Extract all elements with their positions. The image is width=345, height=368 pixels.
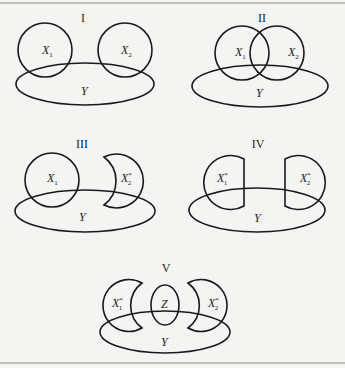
panel-II: II X1 X2 Y (192, 11, 328, 107)
label-x1-star: X*1 (111, 296, 123, 312)
diagram-canvas: I X1 X2 Y II X1 X2 Y III X1 X*2 Y IV X*1… (0, 0, 345, 368)
venn-diagram-figure: I X1 X2 Y II X1 X2 Y III X1 X*2 Y IV X*1… (0, 0, 345, 368)
label-y: Y (256, 86, 264, 100)
label-y: Y (254, 211, 262, 225)
set-y-ellipse (189, 188, 325, 232)
label-x1-star: X*1 (216, 171, 228, 187)
panel-label-I: I (81, 11, 85, 25)
panel-IV: IV X*1 X*2 Y (189, 137, 325, 232)
label-y: Y (161, 335, 169, 349)
set-x1-star-crescent (103, 280, 142, 332)
label-x2: X2 (287, 45, 299, 61)
label-x2-star: X*2 (299, 171, 311, 187)
panel-III: III X1 X*2 Y (15, 137, 155, 232)
panel-label-V: V (162, 261, 171, 275)
panel-label-II: II (258, 11, 266, 25)
label-y: Y (79, 210, 87, 224)
label-x1: X1 (234, 45, 246, 61)
label-y: Y (81, 84, 89, 98)
label-x2-star: X*2 (120, 171, 132, 187)
label-x1: X1 (46, 171, 58, 187)
panel-label-IV: IV (252, 137, 265, 151)
panel-V: V X*1 Z X*2 Y (100, 261, 230, 353)
label-x2: X2 (120, 43, 132, 59)
panel-label-III: III (76, 137, 88, 151)
label-z: Z (161, 297, 168, 311)
panel-I: I X1 X2 Y (16, 11, 154, 105)
label-x2-star: X*2 (207, 296, 219, 312)
label-x1: X1 (41, 43, 53, 59)
